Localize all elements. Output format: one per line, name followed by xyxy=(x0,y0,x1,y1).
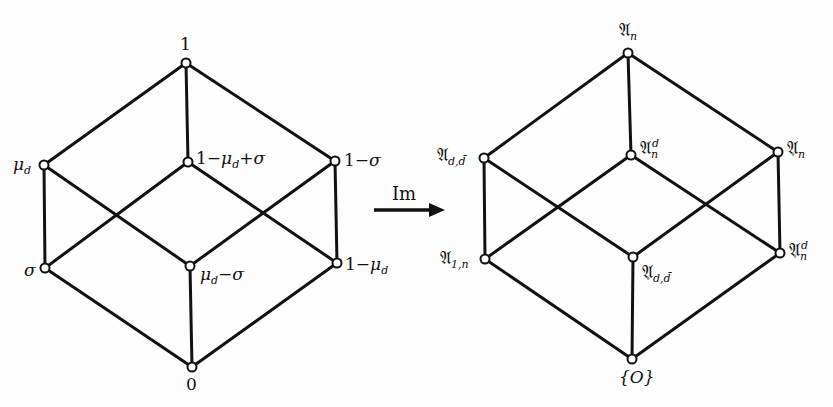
label-1: 1 xyxy=(180,36,191,53)
label-1-minus-mu-d: 1−μd xyxy=(345,256,388,276)
node-1-minus-sigma xyxy=(331,157,340,166)
label-A-n-d: 𝔄nd xyxy=(640,138,659,160)
label-mu-d-minus-sigma: μd−σ xyxy=(200,266,244,286)
node-sigma xyxy=(41,264,50,273)
label-A-circ-d-dbar: 𝔄∘d,d̄ xyxy=(642,264,671,284)
node-A-n-d xyxy=(627,151,636,160)
im-arrow-icon xyxy=(374,203,445,217)
im-arrow-label: Im xyxy=(392,183,416,204)
right-lattice-edges xyxy=(484,53,780,359)
node-A-circ-dd xyxy=(629,253,638,262)
label-A-circ-n-d: 𝔄∘nd xyxy=(789,240,808,262)
label-A-1-n: 𝔄1,n xyxy=(440,250,469,270)
node-mu-d xyxy=(40,161,49,170)
node-A-n xyxy=(624,49,633,58)
node-mu-minus-sigma xyxy=(186,262,195,271)
left-lattice-edges xyxy=(44,63,337,367)
node-0 xyxy=(188,363,197,372)
label-A-n: 𝔄n xyxy=(619,22,637,42)
label-1-minus-mu-d-plus-sigma: 1−μd+σ xyxy=(196,150,265,170)
node-A-dd xyxy=(480,154,489,163)
label-0: 0 xyxy=(186,376,197,393)
label-sigma: σ xyxy=(24,262,36,279)
node-1-minus-mu xyxy=(333,259,342,268)
label-A-circ-n: 𝔄∘n xyxy=(787,140,805,160)
node-1 xyxy=(182,59,191,68)
label-A-d-dbar: 𝔄d,d̄ xyxy=(437,147,466,167)
node-O xyxy=(628,355,637,364)
label-mu-d: μd xyxy=(13,156,31,176)
label-1-minus-sigma: 1−σ xyxy=(344,152,381,169)
node-A-1n xyxy=(481,255,490,264)
node-A-circ-n xyxy=(774,148,783,157)
node-A-circ-n-d xyxy=(776,249,785,258)
label-O-set: {O} xyxy=(619,369,655,386)
lattice-edges xyxy=(0,0,833,407)
diagram-canvas: 1 μd 1−μd+σ 1−σ σ μd−σ 1−μd 0 Im 𝔄n 𝔄d,d… xyxy=(0,0,833,407)
node-1-minus-mu-plus-sigma xyxy=(184,158,193,167)
